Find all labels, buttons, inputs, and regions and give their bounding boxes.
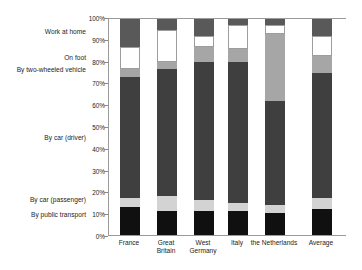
bar-average [312, 19, 332, 235]
x-tick-label: Great Britain [149, 239, 183, 255]
bar-segment [312, 209, 332, 235]
bar-segment [228, 62, 248, 202]
bar-segment [157, 69, 177, 196]
bar-segment [265, 213, 285, 235]
bar-segment [228, 211, 248, 235]
bar-segment [194, 211, 214, 235]
bar-segment [157, 211, 177, 235]
y-tick-mark [104, 192, 108, 193]
bar-segment [120, 207, 140, 235]
bar-segment [194, 36, 214, 47]
bar-france [120, 19, 140, 235]
plot-area [108, 18, 346, 236]
bar-segment [194, 62, 214, 200]
bar-segment [194, 19, 214, 36]
y-tick-mark [104, 40, 108, 41]
category-label-work-at-home: Work at home [45, 28, 86, 36]
bar-italy [228, 19, 248, 235]
bar-segment [157, 30, 177, 62]
y-tick-label: 100% [89, 15, 105, 22]
bar-segment [312, 56, 332, 73]
bar-segment [120, 47, 140, 69]
y-tick-mark [104, 214, 108, 215]
bar-segment [157, 196, 177, 211]
y-tick-mark [104, 62, 108, 63]
category-label-on-foot: On foot [64, 54, 86, 62]
x-tick-label: West Germany [186, 239, 220, 255]
bar-segment [265, 205, 285, 214]
bar-segment [157, 19, 177, 30]
bar-segment [312, 19, 332, 36]
y-tick-mark [104, 171, 108, 172]
x-tick-label: France [112, 239, 146, 247]
bar-segment [228, 25, 248, 49]
y-tick-mark [104, 105, 108, 106]
bar-segment [312, 36, 332, 55]
bar-segment [265, 101, 285, 205]
bar-segment [228, 49, 248, 62]
bar-segment [120, 198, 140, 207]
x-axis: FranceGreat BritainWest GermanyItalythe … [108, 239, 346, 267]
y-tick-mark [104, 83, 108, 84]
category-label-by-public-transport: By public transport [31, 211, 86, 219]
bar-segment [312, 198, 332, 209]
category-label-by-car-passenger: By car (passenger) [30, 196, 86, 204]
y-tick-mark [104, 18, 108, 19]
y-tick-mark [104, 149, 108, 150]
x-tick-label: the Netherlands [246, 239, 302, 247]
bar-segment [265, 25, 285, 34]
x-tick-label: Average [304, 239, 338, 247]
bar-west-germany [194, 19, 214, 235]
bar-segment [312, 73, 332, 198]
y-tick-mark [104, 236, 108, 237]
category-label-by-car-driver: By car (driver) [44, 134, 86, 142]
bar-great-britain [157, 19, 177, 235]
stacked-bar-chart: Work at homeOn footBy two-wheeled vehicl… [0, 0, 362, 270]
y-tick-mark [104, 127, 108, 128]
bar-segment [120, 69, 140, 78]
category-label-by-two-wheeled-vehicle: By two-wheeled vehicle [17, 66, 86, 74]
bar-segment [120, 77, 140, 198]
bar-segment [265, 34, 285, 101]
bar-the-netherlands [265, 19, 285, 235]
bar-segment [228, 203, 248, 212]
bar-segment [194, 200, 214, 211]
bar-segment [120, 19, 140, 47]
bar-segment [194, 47, 214, 62]
category-legend-labels: Work at homeOn footBy two-wheeled vehicl… [0, 0, 86, 270]
